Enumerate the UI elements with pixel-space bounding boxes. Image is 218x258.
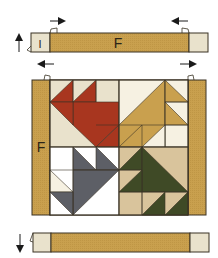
side-strip-right [188, 75, 206, 215]
quilt-diagram: F I F [0, 0, 218, 258]
bottom-strip [30, 233, 209, 252]
top-strip: F I [27, 28, 208, 52]
side-strip-left: F [32, 75, 50, 215]
left-arrow-icon [37, 60, 54, 68]
strip-label-f: F [114, 35, 123, 51]
up-arrow-icon [15, 33, 23, 52]
block-red-basket [50, 80, 119, 147]
down-arrow-icon [16, 234, 24, 253]
block-gold-basket [119, 80, 188, 147]
block-green-basket [119, 147, 188, 215]
right-arrow-icon [180, 60, 197, 68]
left-arrow-icon [171, 17, 188, 25]
strip-label-i: I [38, 38, 41, 50]
side-label-f: F [37, 139, 46, 155]
right-arrow-icon [50, 17, 66, 25]
block-gray-basket [50, 147, 119, 215]
